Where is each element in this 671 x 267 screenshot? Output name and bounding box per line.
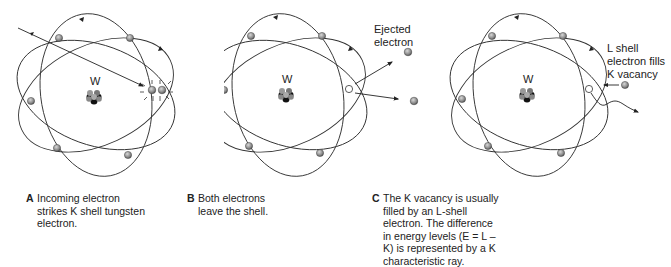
panel-letter: A	[26, 192, 34, 205]
annotation-line: electron	[374, 36, 413, 49]
ejected-electron-path	[355, 62, 392, 84]
nucleus-icon	[86, 90, 102, 105]
panel-c: W L shell electron fills K vacancy	[447, 0, 671, 180]
panel-letter: B	[187, 192, 195, 205]
annotation-line: K vacancy	[607, 68, 665, 81]
orbit-direction-arrow	[514, 15, 519, 20]
caption-text: The K vacancy is usually filled by an L-…	[372, 192, 502, 267]
caption-c: C The K vacancy is usually filled by an …	[372, 192, 502, 267]
orbit-direction-arrow	[79, 17, 84, 22]
nucleus-icon	[278, 88, 294, 103]
electrons	[458, 32, 628, 156]
orbits	[447, 5, 624, 180]
orbit-direction-arrow	[273, 15, 278, 20]
characteristic-xray-icon	[591, 93, 638, 112]
orbits	[224, 5, 383, 180]
orbit-direction-arrow	[589, 46, 594, 51]
incident-electron-exit-path	[355, 93, 398, 99]
ejected-electron-label: Ejected electron	[374, 23, 413, 49]
caption-text: Both electrons leave the shell.	[187, 192, 292, 217]
caption-text: Incoming electron strikes K shell tungst…	[26, 192, 146, 230]
atom-diagram-c: W	[447, 0, 671, 180]
annotation-line: L shell	[607, 42, 665, 55]
annotation-line: Ejected	[374, 23, 413, 36]
nucleus-icon	[519, 88, 535, 103]
atom-diagram-a: W	[0, 0, 224, 180]
l-shell-fill-label: L shell electron fills K vacancy	[607, 42, 665, 81]
panel-letter: C	[372, 192, 380, 205]
caption-a: A Incoming electron strikes K shell tung…	[26, 192, 146, 230]
element-label: W	[90, 75, 101, 87]
panel-a: W	[0, 0, 224, 180]
element-label: W	[523, 73, 534, 85]
collision-spark-icon	[140, 80, 173, 101]
caption-b: B Both electrons leave the shell.	[187, 192, 292, 217]
k-shell-vacancy	[345, 85, 352, 92]
panel-b: W Ejected electron	[224, 0, 448, 180]
element-label: W	[282, 73, 293, 85]
annotation-line: electron fills	[607, 55, 665, 68]
k-shell-vacancy	[585, 85, 592, 92]
orbit-direction-arrow	[348, 46, 353, 51]
atom-diagram-b: W	[224, 0, 448, 180]
electrons	[224, 32, 418, 156]
